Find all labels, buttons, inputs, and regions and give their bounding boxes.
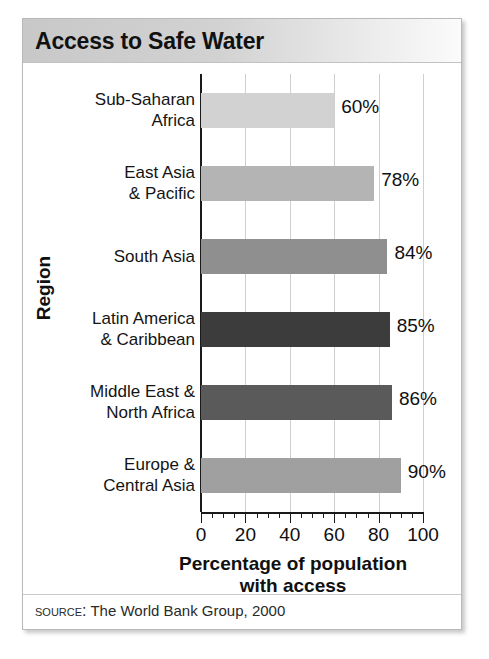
bar-value-label: 78% <box>381 169 419 191</box>
category-label-line1: Latin America <box>35 308 195 329</box>
x-axis-title: Percentage of population with access <box>133 553 453 597</box>
bar <box>201 239 387 274</box>
bar <box>201 93 334 128</box>
x-tick-major <box>423 512 424 523</box>
x-axis-title-line1: Percentage of population <box>133 553 453 575</box>
source-keyword: Source: <box>35 602 87 619</box>
x-axis: 020406080100 <box>201 512 424 526</box>
x-tick-minor <box>301 512 302 518</box>
x-tick-minor <box>212 512 213 518</box>
x-tick-minor <box>368 512 369 518</box>
category-label: Sub-SaharanAfrica <box>35 89 195 131</box>
x-tick-label: 60 <box>324 524 345 546</box>
bar <box>201 312 390 347</box>
category-label-line1: East Asia <box>35 162 195 183</box>
x-tick-minor <box>323 512 324 518</box>
x-tick-major <box>334 512 335 523</box>
x-tick-major <box>290 512 291 523</box>
x-tick-label: 100 <box>407 524 439 546</box>
category-label-line1: Europe & <box>35 454 195 475</box>
bar-row: 90% <box>201 439 423 512</box>
plot-area: 60%78%84%85%86%90% <box>201 74 423 512</box>
x-tick-minor <box>279 512 280 518</box>
bar-value-label: 84% <box>394 242 432 264</box>
category-label: East Asia& Pacific <box>35 162 195 204</box>
x-tick-minor <box>268 512 269 518</box>
title-band: Access to Safe Water <box>23 19 461 63</box>
bar <box>201 166 374 201</box>
category-label: Latin America& Caribbean <box>35 308 195 350</box>
category-label-group: Sub-SaharanAfricaEast Asia& PacificSouth… <box>31 74 195 512</box>
x-tick-minor <box>390 512 391 518</box>
category-label-line2: Africa <box>35 110 195 131</box>
chart-figure: Access to Safe Water Region Sub-SaharanA… <box>22 18 462 630</box>
x-tick-major <box>379 512 380 523</box>
category-label: South Asia <box>35 246 195 267</box>
x-tick-major <box>201 512 202 523</box>
category-label-line2: North Africa <box>35 402 195 423</box>
category-label-line2: Central Asia <box>35 475 195 496</box>
bar-value-label: 60% <box>341 96 379 118</box>
x-tick-minor <box>356 512 357 518</box>
x-tick-minor <box>223 512 224 518</box>
bar-row: 84% <box>201 220 423 293</box>
x-tick-label: 40 <box>279 524 300 546</box>
bar-value-label: 85% <box>397 315 435 337</box>
x-tick-minor <box>401 512 402 518</box>
x-tick-minor <box>257 512 258 518</box>
source-text: The World Bank Group, 2000 <box>90 602 285 619</box>
bar-row: 86% <box>201 366 423 439</box>
category-label-line1: Sub-Saharan <box>35 89 195 110</box>
category-label-line2: & Caribbean <box>35 329 195 350</box>
bar-row: 60% <box>201 74 423 147</box>
category-label: Middle East &North Africa <box>35 381 195 423</box>
chart-title: Access to Safe Water <box>35 28 264 55</box>
source-note: Source: The World Bank Group, 2000 <box>35 602 285 620</box>
category-label-line2: & Pacific <box>35 183 195 204</box>
bar-row: 85% <box>201 293 423 366</box>
bar <box>201 385 392 420</box>
x-tick-major <box>245 512 246 523</box>
gridline <box>423 74 424 512</box>
bar-row: 78% <box>201 147 423 220</box>
source-divider <box>23 594 461 595</box>
category-label: Europe &Central Asia <box>35 454 195 496</box>
x-tick-minor <box>345 512 346 518</box>
bar <box>201 458 401 493</box>
bar-value-label: 90% <box>408 461 446 483</box>
x-tick-label: 20 <box>235 524 256 546</box>
x-tick-minor <box>312 512 313 518</box>
category-label-line1: Middle East & <box>35 381 195 402</box>
x-tick-minor <box>412 512 413 518</box>
category-label-line1: South Asia <box>35 246 195 267</box>
x-tick-label: 0 <box>196 524 207 546</box>
bar-value-label: 86% <box>399 388 437 410</box>
x-tick-label: 80 <box>368 524 389 546</box>
x-tick-minor <box>234 512 235 518</box>
